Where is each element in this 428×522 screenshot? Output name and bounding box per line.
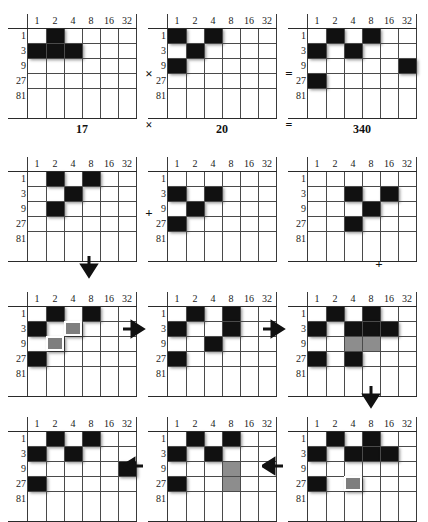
column-header-4: 4 (204, 417, 222, 430)
cell-filled-r27-c1 (308, 476, 326, 491)
grid-2-1: 124816321392781 (28, 157, 148, 260)
gridline-horizontal (168, 58, 276, 59)
column-header-16: 16 (100, 157, 118, 170)
grid-body (168, 28, 276, 118)
column-header-32: 32 (118, 417, 136, 430)
row-header-3: 3 (150, 446, 166, 461)
gridline-horizontal (168, 73, 276, 74)
row-header-81: 81 (290, 88, 306, 103)
grid-border-edge-r (136, 157, 137, 261)
column-header-32: 32 (398, 292, 416, 305)
gridline-horizontal (168, 351, 276, 352)
row-header-3: 3 (290, 321, 306, 336)
column-header-2: 2 (46, 14, 64, 27)
column-header-8: 8 (362, 157, 380, 170)
grid-border-edge-l (27, 417, 28, 521)
column-header-32: 32 (398, 14, 416, 27)
column-header-32: 32 (258, 292, 276, 305)
column-header-32: 32 (398, 417, 416, 430)
grid-caption: 20 (168, 122, 276, 137)
row-header-27: 27 (10, 476, 26, 491)
row-header-3: 3 (10, 321, 26, 336)
grid-caption: 17 (28, 122, 136, 137)
cell-highlighted-r27-c4 (344, 476, 362, 491)
grid-border-edge-r (136, 292, 137, 396)
cell-filled-r9-c32 (398, 58, 416, 73)
column-header-32: 32 (258, 417, 276, 430)
gridline-horizontal (168, 476, 276, 477)
column-header-1: 1 (168, 292, 186, 305)
cell-filled-r3-c4 (344, 321, 362, 336)
gridline-horizontal (308, 446, 416, 447)
column-header-4: 4 (64, 292, 82, 305)
row-header-81: 81 (10, 491, 26, 506)
cell-filled-r1-c8 (82, 171, 100, 186)
cell-filled-r3-c1 (168, 446, 186, 461)
cell-filled-r1-c2 (46, 306, 64, 321)
grid-body (28, 28, 136, 118)
cell-shaded-r27-c8 (222, 476, 240, 491)
grid-caption: 340 (308, 122, 416, 137)
gridline-horizontal (28, 461, 136, 462)
arrow-down-row2-to-row3-left (78, 255, 102, 279)
grid-body (308, 431, 416, 521)
gridline-horizontal (308, 43, 416, 44)
gridline-horizontal (28, 186, 136, 187)
cell-filled-r27-c1 (28, 351, 46, 366)
multiply-operator-grid: × (140, 66, 158, 82)
cell-filled-r1-c2 (46, 431, 64, 446)
grid-border-edge-l (307, 292, 308, 396)
grid-border-top-rule (8, 306, 137, 307)
grid-border-edge-l (307, 417, 308, 521)
grid-border-bot-rule (148, 118, 277, 119)
grid-border-bot-rule (288, 118, 417, 119)
row-header-1: 1 (150, 431, 166, 446)
row-header-81: 81 (150, 491, 166, 506)
grid-border-edge-l (27, 292, 28, 396)
arrow-left-row4-g2-to-g1 (122, 455, 146, 479)
row-header-1: 1 (150, 28, 166, 43)
grid-body (308, 306, 416, 396)
row-header-27: 27 (290, 476, 306, 491)
cell-filled-r1-c2 (46, 28, 64, 43)
row-header-3: 3 (150, 43, 166, 58)
cell-filled-r27-c1 (308, 351, 326, 366)
grid-border-edge-l (27, 14, 28, 118)
column-header-16: 16 (240, 417, 258, 430)
multiply-operator-caption: × (140, 118, 158, 133)
row-header-81: 81 (150, 366, 166, 381)
cell-filled-r9-c4 (204, 336, 222, 351)
gridline-horizontal (28, 321, 136, 322)
row-header-1: 1 (150, 306, 166, 321)
column-header-32: 32 (258, 14, 276, 27)
column-header-8: 8 (82, 157, 100, 170)
column-header-2: 2 (326, 14, 344, 27)
gridline-horizontal (168, 231, 276, 232)
row-header-3: 3 (290, 446, 306, 461)
row-header-9: 9 (290, 461, 306, 476)
column-header-8: 8 (222, 417, 240, 430)
gridline-horizontal (28, 336, 136, 337)
column-header-1: 1 (28, 157, 46, 170)
plus-operator-row2: + (140, 205, 158, 221)
cell-filled-r27-c1 (168, 351, 186, 366)
grid-border-bot-rule (148, 261, 277, 262)
grid-border-top-rule (288, 306, 417, 307)
grid-1-2: 12481632139278120 (168, 14, 288, 117)
cell-filled-r3-c4 (64, 43, 82, 58)
gridline-horizontal (308, 336, 416, 337)
gridline-horizontal (28, 58, 136, 59)
row-header-3: 3 (290, 186, 306, 201)
gridline-horizontal (168, 201, 276, 202)
cell-filled-r27-c4 (344, 216, 362, 231)
row-header-81: 81 (290, 366, 306, 381)
column-header-32: 32 (118, 157, 136, 170)
cell-filled-r9-c1 (168, 58, 186, 73)
grid-1-1: 12481632139278117 (28, 14, 148, 117)
cell-filled-r1-c2 (186, 431, 204, 446)
cell-filled-r1-c2 (186, 306, 204, 321)
cell-filled-r3-c1 (308, 321, 326, 336)
grid-border-top-rule (148, 431, 277, 432)
column-header-1: 1 (168, 14, 186, 27)
cell-filled-r3-c8 (362, 321, 380, 336)
